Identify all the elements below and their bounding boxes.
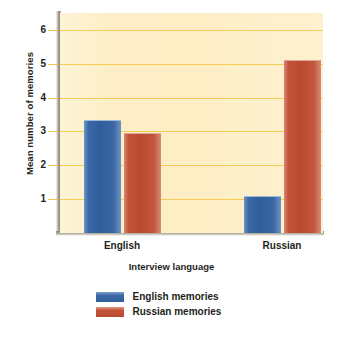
y-tick-label-4: 4: [0, 93, 46, 103]
tick-mark-3: [48, 131, 57, 132]
bar-english-english: [84, 120, 121, 233]
category-label-russian: Russian: [263, 240, 302, 251]
y-tick-label-3: 3: [0, 126, 46, 136]
legend-swatch-icon-english: [96, 292, 124, 302]
y-tick-label-5: 5: [0, 59, 46, 69]
tick-mark-1: [48, 199, 57, 200]
tick-mark-5: [48, 64, 57, 65]
y-axis-title: Mean number of memories: [24, 19, 35, 209]
chart-legend: English memories Russian memories: [0, 291, 343, 317]
y-tick-label-6: 6: [0, 25, 46, 35]
tick-mark-2: [48, 165, 57, 166]
bar-russian-english: [244, 196, 281, 233]
legend-item-english-memories: English memories: [96, 291, 248, 302]
gridline-6: [60, 30, 323, 31]
y-tick-label-2: 2: [0, 160, 46, 170]
legend-label-english: English memories: [133, 291, 219, 302]
legend-swatch-icon-russian: [96, 307, 124, 317]
chart-figure: Mean number of memories 123456 English R…: [0, 0, 343, 344]
tick-mark-4: [48, 98, 57, 99]
category-label-english: English: [104, 240, 140, 251]
legend-label-russian: Russian memories: [133, 306, 222, 317]
bar-english-russian: [124, 133, 161, 233]
x-axis-title: Interview language: [0, 261, 343, 272]
tick-mark-6: [48, 30, 57, 31]
bar-russian-russian: [284, 60, 321, 233]
y-tick-label-1: 1: [0, 194, 46, 204]
plot-area: [60, 13, 323, 233]
legend-item-russian-memories: Russian memories: [96, 306, 248, 317]
